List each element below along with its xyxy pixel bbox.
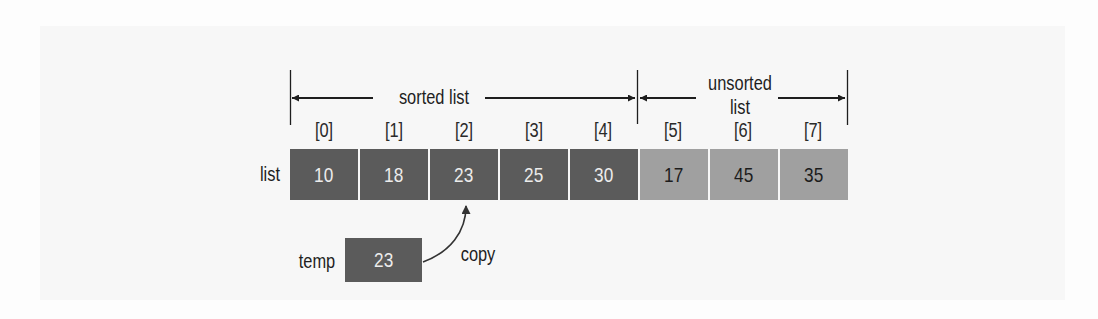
index-label-4: [4] xyxy=(575,119,631,141)
temp-label: temp xyxy=(297,250,338,272)
sorted-list-label: sorted list xyxy=(395,86,474,108)
index-label-6: [6] xyxy=(715,119,771,141)
index-label-3: [3] xyxy=(506,119,562,141)
array-cell-1: 18 xyxy=(360,149,428,200)
cell-value: 25 xyxy=(524,163,543,187)
copy-label: copy xyxy=(458,243,497,265)
cell-value: 30 xyxy=(594,163,613,187)
array-name-label: list xyxy=(257,163,283,185)
index-label-0: [0] xyxy=(296,119,352,141)
index-label-7: [7] xyxy=(785,119,841,141)
array-cell-3: 25 xyxy=(500,149,568,200)
cell-value: 17 xyxy=(664,163,683,187)
array-cell-6: 45 xyxy=(710,149,778,200)
temp-value: 23 xyxy=(374,248,393,272)
temp-box: 23 xyxy=(345,238,422,282)
array-cells: 10 18 23 25 30 17 45 35 xyxy=(290,149,848,200)
index-label-2: [2] xyxy=(436,119,492,141)
index-label-1: [1] xyxy=(366,119,422,141)
cell-value: 10 xyxy=(314,163,333,187)
cell-value: 23 xyxy=(454,163,473,187)
array-cell-0: 10 xyxy=(290,149,358,200)
unsorted-list-label-line1: unsorted xyxy=(706,72,775,94)
array-cell-2: 23 xyxy=(430,149,498,200)
unsorted-list-label-line2: list xyxy=(722,96,758,118)
cell-value: 35 xyxy=(804,163,823,187)
cell-value: 18 xyxy=(384,163,403,187)
array-cell-4: 30 xyxy=(570,149,638,200)
array-cell-5: 17 xyxy=(640,149,708,200)
index-label-5: [5] xyxy=(645,119,701,141)
insertion-sort-diagram: sorted list unsorted list [0] [1] [2] [3… xyxy=(0,0,1098,319)
cell-value: 45 xyxy=(734,163,753,187)
array-cell-7: 35 xyxy=(780,149,848,200)
